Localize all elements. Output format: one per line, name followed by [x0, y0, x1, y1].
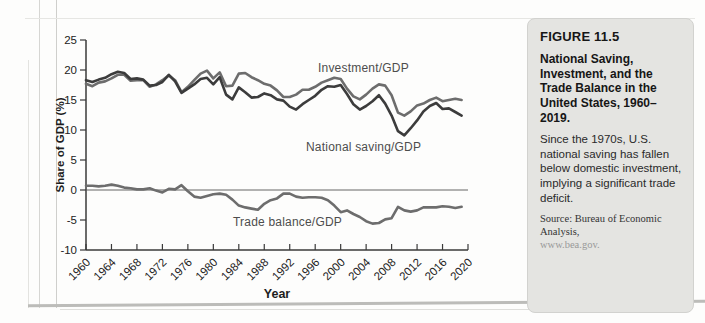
x-tick-label: 1992 — [270, 256, 297, 283]
x-tick-label: 2016 — [422, 256, 449, 283]
chart-figure: 2520151050-5-101960196419681972197619801… — [0, 0, 520, 310]
y-tick-label: 20 — [64, 64, 77, 76]
series-label-national-saving: National saving/GDP — [306, 140, 421, 154]
source-url: www.bea.gov. — [540, 239, 600, 250]
source-text: Source: Bureau of Economic Analysis, — [540, 213, 662, 237]
scanned-textbook-page: 2520151050-5-101960196419681972197619801… — [0, 0, 705, 323]
x-tick-label: 1968 — [117, 256, 144, 283]
x-tick-label: 1984 — [219, 256, 246, 283]
y-tick-label: 10 — [64, 124, 77, 136]
series-label-investment: Investment/GDP — [318, 61, 409, 75]
x-tick-label: 2004 — [346, 256, 373, 283]
y-tick-label: 25 — [64, 34, 77, 46]
x-tick-label: 1972 — [142, 256, 169, 283]
figure-title: National Saving, Investment, and the Tra… — [540, 52, 683, 125]
figure-caption-box: FIGURE 11.5 National Saving, Investment,… — [527, 18, 694, 313]
x-tick-label: 2020 — [448, 256, 475, 283]
x-axis-title: Year — [264, 287, 290, 301]
figure-caption-text: Since the 1970s, U.S. national saving ha… — [540, 132, 683, 205]
y-tick-label: -10 — [60, 244, 77, 256]
y-axis-title: Share of GDP (%) — [54, 98, 66, 193]
x-tick-label: 1988 — [244, 256, 271, 283]
y-tick-label: 5 — [71, 154, 77, 166]
x-tick-label: 2012 — [397, 256, 424, 283]
x-tick-label: 2000 — [320, 256, 347, 283]
figure-number: FIGURE 11.5 — [540, 29, 683, 44]
figure-source: Source: Bureau of Economic Analysis, www… — [540, 212, 683, 251]
y-tick-label: 0 — [71, 184, 77, 196]
x-tick-label: 1980 — [193, 256, 220, 283]
y-tick-label: -5 — [67, 214, 77, 226]
x-tick-label: 1960 — [66, 256, 93, 283]
series-label-trade-balance: Trade balance/GDP — [233, 215, 342, 229]
x-tick-label: 2008 — [371, 256, 398, 283]
series-line-investment-gdp — [86, 71, 462, 116]
x-tick-label: 1964 — [91, 256, 118, 283]
chart-canvas: 2520151050-5-101960196419681972197619801… — [0, 0, 520, 310]
x-tick-label: 1976 — [168, 256, 195, 283]
x-tick-label: 1996 — [295, 256, 322, 283]
y-tick-label: 15 — [64, 94, 77, 106]
